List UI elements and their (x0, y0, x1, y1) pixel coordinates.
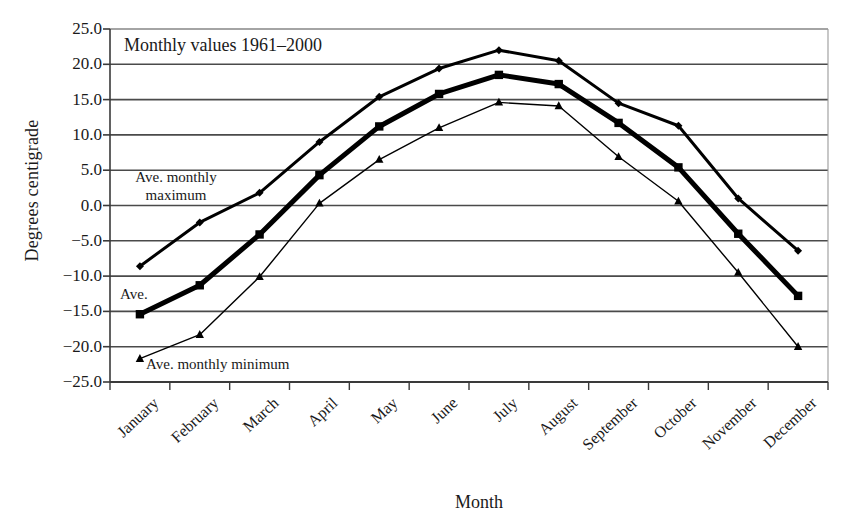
marker-square (555, 80, 563, 88)
marker-triangle (375, 155, 383, 163)
plot-canvas (0, 0, 848, 528)
marker-square (375, 122, 383, 130)
marker-square (614, 119, 622, 127)
series-line (140, 75, 798, 314)
marker-square (734, 230, 742, 238)
marker-square (794, 292, 802, 300)
x-axis-title-text: Month (455, 492, 503, 512)
marker-square (315, 171, 323, 179)
marker-square (495, 71, 503, 79)
series-ave-monthly-maximum (136, 46, 802, 270)
data-series-layer (136, 46, 803, 362)
marker-triangle (674, 197, 682, 205)
marker-square (136, 310, 144, 318)
x-axis-title: Month (0, 492, 848, 513)
temperature-line-chart: Degrees centigrade 25.020.015.010.05.00.… (0, 0, 848, 528)
series-ave (136, 71, 803, 319)
marker-square (435, 90, 443, 98)
series-line (140, 102, 798, 358)
marker-triangle (614, 152, 622, 160)
marker-square (674, 163, 682, 171)
marker-triangle (315, 199, 323, 207)
marker-square (255, 230, 263, 238)
marker-diamond (495, 46, 503, 54)
series-ave-monthly-minimum (136, 98, 803, 362)
marker-square (196, 281, 204, 289)
